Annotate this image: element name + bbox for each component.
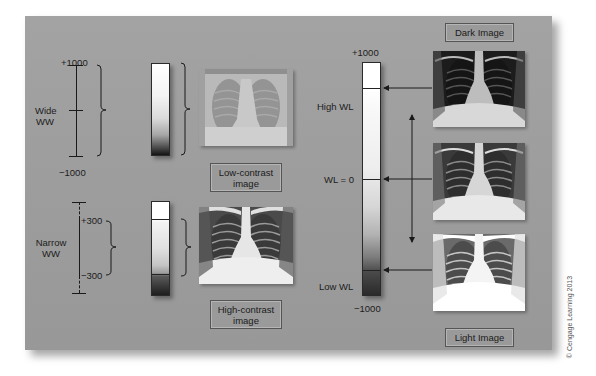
low-wl-label: Low WL: [319, 281, 353, 292]
high-contrast-xray: [199, 207, 293, 284]
wide-ww-mid-tick: [69, 110, 83, 111]
wide-window-grayscale-bar: [151, 63, 170, 156]
wide-ww-label-line2: WW: [36, 116, 54, 127]
wide-ww-label-line1: Wide: [35, 105, 57, 116]
wl-zero-line: [363, 179, 380, 180]
narrow-ww-upper-value: +300: [81, 215, 102, 226]
wl-zero-label: WL = 0: [324, 174, 354, 185]
narrow-upper-limit-line: [152, 219, 169, 220]
low-wl-line: [363, 270, 380, 271]
low-contrast-xray: [199, 69, 293, 146]
light-xray: [433, 234, 525, 311]
dark-image-caption: Dark Image: [445, 23, 514, 42]
wide-ww-bottom-value: −1000: [59, 167, 86, 178]
high-contrast-caption: High-contrast image: [210, 300, 282, 329]
dark-xray: [433, 51, 525, 127]
normal-xray: [433, 143, 525, 220]
high-wl-label: High WL: [317, 101, 353, 112]
high-contrast-caption-line2: image: [233, 315, 259, 326]
narrow-window-grayscale-bar: [151, 201, 170, 296]
high-contrast-caption-line1: High-contrast: [218, 304, 275, 315]
wl-top-value: +1000: [352, 47, 379, 58]
high-wl-line: [363, 88, 380, 89]
low-contrast-caption: Low-contrast image: [210, 163, 282, 192]
copyright-text: © Cengage Learning 2013: [565, 269, 575, 365]
wl-bottom-value: −1000: [354, 303, 381, 314]
wide-ww-top-value: +1000: [61, 57, 88, 68]
narrow-ww-axis-dashed-bottom: [79, 276, 80, 293]
low-contrast-caption-line2: image: [233, 178, 259, 189]
narrow-lower-limit-line: [152, 274, 169, 275]
narrow-ww-label-line1: Narrow: [33, 237, 69, 248]
light-image-caption: Light Image: [445, 328, 514, 347]
narrow-ww-label-line2: WW: [33, 248, 69, 259]
low-contrast-caption-line1: Low-contrast: [219, 167, 273, 178]
window-level-grayscale-bar: [362, 62, 381, 296]
wide-ww-bottom-tick: [69, 156, 83, 157]
wide-ww-axis: [76, 65, 77, 157]
narrow-ww-bottom-tick: [72, 293, 86, 294]
narrow-ww-lower-value: −300: [81, 270, 102, 281]
narrow-ww-axis: [79, 219, 80, 276]
narrow-ww-axis-dashed-top: [79, 202, 80, 219]
